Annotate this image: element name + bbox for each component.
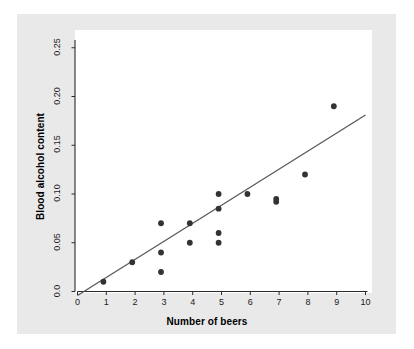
data-point bbox=[158, 250, 164, 256]
y-tick-label: 0.0 bbox=[52, 276, 62, 306]
data-point bbox=[187, 220, 193, 226]
data-point bbox=[158, 269, 164, 275]
data-point bbox=[302, 172, 308, 178]
y-tick-label: 0.25 bbox=[52, 32, 62, 62]
data-point bbox=[187, 240, 193, 246]
regression-line bbox=[78, 115, 366, 295]
y-tick-label: 0.10 bbox=[52, 178, 62, 208]
data-point bbox=[129, 259, 135, 265]
x-tick-label: 0 bbox=[66, 297, 90, 307]
y-tick-label: 0.05 bbox=[52, 227, 62, 257]
axes-group bbox=[72, 40, 368, 295]
x-tick-label: 1 bbox=[94, 297, 118, 307]
x-tick-label: 9 bbox=[325, 297, 349, 307]
data-point bbox=[216, 240, 222, 246]
data-points bbox=[101, 103, 337, 284]
scatter-plot-svg bbox=[0, 0, 414, 349]
x-tick-label: 8 bbox=[296, 297, 320, 307]
data-point bbox=[216, 230, 222, 236]
data-point bbox=[158, 220, 164, 226]
x-tick-label: 3 bbox=[152, 297, 176, 307]
x-tick-label: 10 bbox=[354, 297, 378, 307]
data-point bbox=[101, 279, 107, 285]
regression-line-segment bbox=[78, 115, 366, 295]
x-tick-label: 7 bbox=[267, 297, 291, 307]
x-tick-label: 4 bbox=[181, 297, 205, 307]
x-axis-title: Number of beers bbox=[0, 316, 414, 327]
data-point bbox=[216, 206, 222, 212]
chart-figure: Number of beers Blood alcohol content 01… bbox=[0, 0, 414, 349]
data-point bbox=[273, 199, 279, 205]
y-axis-title: Blood alcohol content bbox=[35, 67, 46, 267]
x-tick-label: 2 bbox=[123, 297, 147, 307]
y-tick-label: 0.15 bbox=[52, 129, 62, 159]
data-point bbox=[216, 191, 222, 197]
data-point bbox=[331, 103, 337, 109]
data-point bbox=[245, 191, 251, 197]
x-tick-label: 6 bbox=[238, 297, 262, 307]
x-tick-label: 5 bbox=[210, 297, 234, 307]
y-tick-label: 0.20 bbox=[52, 81, 62, 111]
